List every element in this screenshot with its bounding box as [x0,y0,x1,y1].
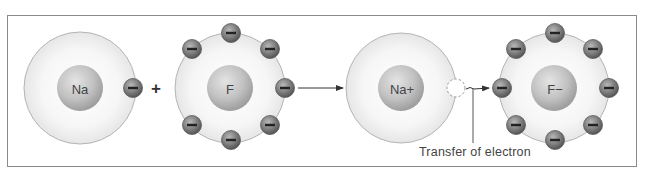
plus-sign: + [151,79,161,99]
transfer-caption: Transfer of electron [419,145,531,159]
diagram-frame [7,15,637,167]
fluorine-nucleus-label: F [226,82,234,97]
sodium-nucleus-label: Na [72,82,89,97]
sodium-ion-nucleus-label: Na+ [390,82,414,97]
fluoride-ion-nucleus-label: F− [547,82,563,97]
